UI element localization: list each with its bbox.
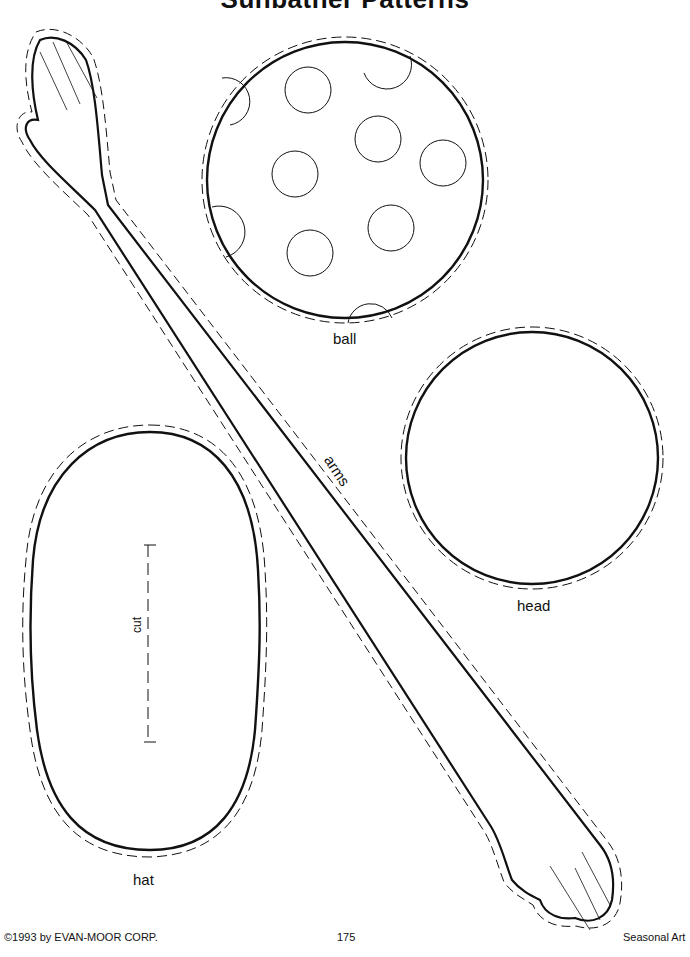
ball-pattern bbox=[202, 37, 488, 323]
arms-outline bbox=[26, 38, 613, 921]
arms-pattern bbox=[17, 29, 622, 930]
head-cut-line bbox=[401, 327, 663, 589]
ball-dots bbox=[212, 56, 466, 323]
head-pattern bbox=[401, 327, 663, 589]
hat-label: hat bbox=[133, 871, 154, 888]
footer-copyright: ©1993 by EVAN-MOOR CORP. bbox=[4, 931, 158, 943]
finger-lines-top bbox=[40, 42, 97, 110]
ball-outline bbox=[207, 42, 483, 318]
footer-book-title: Seasonal Art bbox=[623, 931, 685, 943]
footer-page-number: 175 bbox=[337, 931, 355, 943]
ball-label: ball bbox=[333, 330, 356, 347]
hat-cut-line bbox=[23, 425, 267, 857]
hat-outline bbox=[30, 432, 259, 850]
head-outline bbox=[406, 332, 658, 584]
cut-line-marker bbox=[144, 545, 156, 742]
hat-pattern bbox=[23, 425, 267, 857]
head-label: head bbox=[517, 597, 550, 614]
cut-label: cut bbox=[130, 617, 144, 633]
ball-cut-line bbox=[202, 37, 488, 323]
